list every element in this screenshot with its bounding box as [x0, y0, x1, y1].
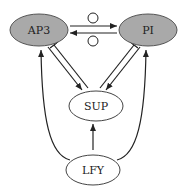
node-lfy: LFY [66, 155, 120, 185]
edge-lfy-ap3 [41, 50, 70, 160]
edge-pi-ap3 [70, 33, 117, 46]
node-ap3-label: AP3 [27, 24, 50, 37]
node-sup-label: SUP [84, 100, 109, 113]
node-pi-label: PI [142, 24, 154, 37]
edge-ap3-pi [70, 13, 117, 26]
edge-sup-pi-inhibit [100, 45, 134, 88]
interaction-circle-icon [88, 36, 98, 46]
edge-ap3-sup [48, 47, 82, 90]
interaction-circle-icon [88, 13, 98, 23]
node-sup: SUP [69, 91, 123, 121]
edge-sup-ap3-inhibit [54, 45, 88, 88]
node-lfy-label: LFY [82, 164, 105, 177]
gene-regulatory-network: AP3 PI SUP LFY [0, 0, 187, 192]
node-pi: PI [119, 14, 177, 46]
node-ap3: AP3 [10, 14, 68, 46]
edge-pi-sup [106, 47, 140, 90]
